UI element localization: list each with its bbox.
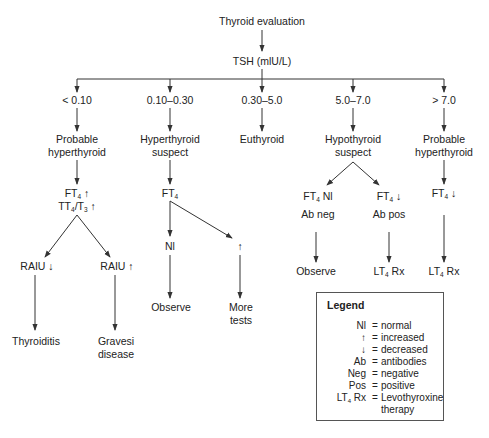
legend-equals: = (370, 368, 380, 380)
arrow-col2-up (170, 201, 232, 238)
test-5: FT4 ↓ (432, 187, 457, 200)
outcome-graves: Gravesi disease (98, 335, 134, 360)
legend-key: ↓ (361, 344, 366, 356)
assessment-4-line2: suspect (325, 146, 381, 159)
test-1-line2: TT4/T3 ↑ (58, 200, 96, 213)
outcome-lt4-hypo: LT4 Rx (374, 265, 405, 278)
legend-key: Ab (354, 356, 366, 368)
test-1-line1: FT4 ↑ (58, 187, 96, 200)
outcome-lt4-hypo-text: LT4 Rx (374, 265, 405, 278)
legend-equals: = (370, 320, 380, 332)
legend-item: ↓=decreased (317, 344, 445, 356)
outcome-observe-2: Observe (296, 265, 336, 278)
assessment-3: Euthyroid (240, 133, 284, 146)
range-label-1: < 0.10 (62, 94, 92, 107)
outcome-observe-1: Observe (151, 301, 191, 314)
outcome-lt4-col5-text: LT4 Rx (429, 265, 460, 278)
range-label-5: > 7.0 (432, 94, 456, 107)
test-1: FT4 ↑ TT4/T3 ↑ (58, 187, 96, 212)
legend-title: Legend (327, 299, 364, 311)
assessment-4-line1: Hypothyroid (325, 133, 381, 146)
arrow-col1-left (45, 215, 77, 257)
hypo-result-right-line2: Ab pos (373, 205, 406, 223)
title-node: Thyroid evaluation (219, 15, 305, 28)
legend-value: decreased (381, 344, 428, 356)
range-label-2: 0.10–0.30 (147, 94, 194, 107)
hypo-result-right-line1: FT4 ↓ (373, 187, 406, 205)
legend-key: Nl (357, 320, 366, 332)
tsh-node: TSH (mlU/L) (233, 55, 291, 68)
legend-key: Neg (348, 368, 366, 380)
arrow-hypo-left (327, 162, 353, 185)
ft4-normal: Nl (165, 240, 175, 253)
outcome-graves-line2: disease (98, 348, 134, 361)
outcome-more-tests-line2: tests (229, 314, 253, 327)
test-2-line1: FT4 (162, 187, 178, 200)
legend-item: Ab=antibodies (317, 356, 445, 368)
assessment-5-line1: Probable (415, 133, 473, 146)
legend-equals: = (370, 344, 380, 356)
hypo-result-left-line1: FT4 Nl (301, 187, 334, 205)
legend-value: negative (381, 368, 419, 380)
legend-value: normal (381, 320, 412, 332)
legend-equals: = (370, 356, 380, 368)
arrow-hypo-right (353, 162, 379, 185)
assessment-5: Probable hyperthyroid (415, 133, 473, 158)
legend-equals: = (370, 380, 380, 392)
assessment-1-line1: Probable (48, 133, 106, 146)
assessment-1: Probable hyperthyroid (48, 133, 106, 158)
hypo-result-left: FT4 Nl Ab neg (301, 187, 334, 223)
legend-item: Nl=normal (317, 320, 445, 332)
assessment-4: Hypothyroid suspect (325, 133, 381, 158)
ft4-increased: ↑ (237, 240, 242, 253)
legend-key: LT4 Rx (337, 392, 366, 404)
legend-value: positive (381, 380, 415, 392)
legend-key: Pos (349, 380, 366, 392)
raiu-decreased: RAIU ↓ (20, 260, 53, 273)
assessment-2: Hyperthyroid suspect (140, 133, 200, 158)
assessment-1-line2: hyperthyroid (48, 146, 106, 159)
test-5-line1: FT4 ↓ (432, 187, 457, 200)
legend-item-continuation: therapy (317, 404, 445, 416)
legend-value: Levothyroxine (381, 392, 443, 404)
legend-value: antibodies (381, 356, 427, 368)
hypo-result-left-line2: Ab neg (301, 205, 334, 223)
test-2: FT4 (162, 187, 178, 200)
legend-item: Pos=positive (317, 380, 445, 392)
legend-equals: = (370, 392, 380, 404)
outcome-thyroiditis: Thyroiditis (12, 335, 60, 348)
legend-value: therapy (381, 404, 414, 416)
assessment-2-line2: suspect (140, 146, 200, 159)
legend-item: LT4 Rx=Levothyroxine (317, 392, 445, 404)
outcome-more-tests: More tests (229, 301, 253, 326)
range-label-3: 0.30–5.0 (242, 94, 283, 107)
legend-item: ↑=increased (317, 332, 445, 344)
legend-item: Neg=negative (317, 368, 445, 380)
raiu-increased: RAIU ↑ (100, 260, 133, 273)
range-label-4: 5.0–7.0 (335, 94, 370, 107)
hypo-result-right: FT4 ↓ Ab pos (373, 187, 406, 223)
outcome-graves-line1: Gravesi (98, 335, 134, 348)
legend-box: Legend Nl=normal↑=increased↓=decreasedAb… (316, 292, 444, 421)
legend-equals: = (370, 332, 380, 344)
arrow-col1-right (77, 215, 110, 257)
legend-key: ↑ (361, 332, 366, 344)
assessment-2-line1: Hyperthyroid (140, 133, 200, 146)
legend-value: increased (381, 332, 424, 344)
outcome-lt4-col5: LT4 Rx (429, 265, 460, 278)
assessment-5-line2: hyperthyroid (415, 146, 473, 159)
outcome-more-tests-line1: More (229, 301, 253, 314)
